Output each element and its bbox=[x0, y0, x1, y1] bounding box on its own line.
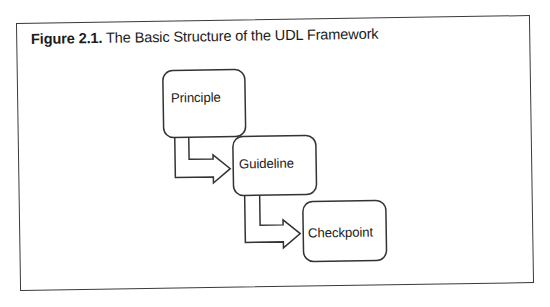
arrow-guideline-to-checkpoint bbox=[245, 195, 301, 249]
udl-diagram bbox=[0, 0, 550, 307]
principle-label: Principle bbox=[171, 90, 221, 106]
checkpoint-label: Checkpoint bbox=[308, 225, 373, 241]
arrow-principle-to-guideline bbox=[175, 137, 231, 184]
guideline-label: Guideline bbox=[239, 156, 294, 172]
